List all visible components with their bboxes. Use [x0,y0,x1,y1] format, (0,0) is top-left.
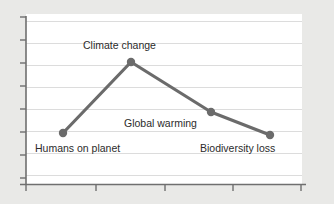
point-label-humans-on-planet: Humans on planet [35,142,120,154]
data-point-marker[interactable] [207,108,215,116]
y-axis [20,16,26,185]
point-label-biodiversity-loss: Biodiversity loss [200,142,275,154]
line-chart-figure: Climate change Humans on planet Global w… [0,0,334,204]
data-point-marker[interactable] [59,129,67,137]
data-point-marker[interactable] [266,131,274,139]
data-point-marker[interactable] [127,58,135,66]
x-axis [20,184,306,191]
point-label-global-warming: Global warming [124,117,197,129]
chart-canvas [0,0,334,204]
point-label-climate-change: Climate change [83,39,156,51]
